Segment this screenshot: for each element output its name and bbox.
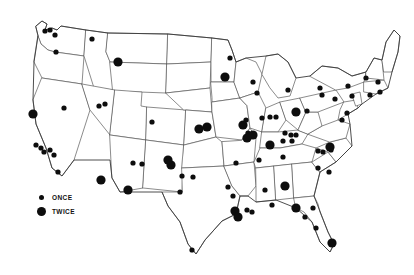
city-dot [267, 114, 272, 119]
city-dot [242, 133, 251, 142]
legend-label-once: ONCE [52, 194, 72, 201]
city-dot [233, 160, 238, 165]
city-dot [123, 185, 132, 194]
city-dot [285, 87, 290, 92]
city-dot [313, 225, 318, 230]
city-dot [315, 148, 320, 153]
city-dot [291, 107, 300, 116]
city-dot [315, 165, 320, 170]
visit-frequency-legend: ONCE TWICE [36, 190, 106, 218]
city-dot [325, 142, 334, 151]
city-dot [256, 157, 261, 162]
city-dot [53, 49, 58, 54]
city-dot [47, 27, 52, 32]
city-dot [302, 214, 307, 219]
city-dot [55, 169, 60, 174]
large-dot-icon [37, 207, 46, 216]
city-dot [282, 130, 287, 135]
city-dot [177, 189, 182, 194]
state-boundaries [33, 21, 400, 254]
city-dot [52, 32, 57, 37]
city-dot [377, 89, 382, 94]
us-map-graphic [0, 0, 414, 275]
city-dot [233, 212, 242, 221]
city-dot [238, 120, 247, 129]
city-dot [262, 187, 267, 192]
city-dot [289, 138, 294, 143]
city-dot [89, 36, 94, 41]
city-dot [220, 72, 229, 81]
city-dot [179, 173, 184, 178]
legend-item-twice: TWICE [36, 204, 106, 218]
city-dot [326, 169, 331, 174]
city-dot [33, 142, 38, 147]
city-dot [288, 132, 293, 137]
city-dot [344, 110, 349, 115]
city-dot [280, 181, 289, 190]
city-dot [149, 119, 154, 124]
city-dot [47, 147, 52, 152]
city-dot [202, 122, 211, 131]
city-dot [367, 92, 372, 97]
city-dot [96, 175, 105, 184]
city-dot [102, 101, 107, 106]
city-dot [304, 108, 309, 113]
city-dot [339, 117, 344, 122]
city-dot [130, 160, 135, 165]
city-dot [273, 114, 278, 119]
city-dot [244, 207, 249, 212]
city-dot [41, 149, 46, 154]
city-dot [225, 184, 230, 189]
city-dot [280, 154, 285, 159]
city-dot [349, 93, 354, 98]
city-dot [139, 161, 144, 166]
city-dot [227, 55, 232, 60]
city-dot [280, 138, 285, 143]
city-dot [259, 115, 264, 120]
city-dot [51, 152, 56, 157]
small-dot-icon [39, 195, 44, 200]
city-dot [28, 109, 37, 118]
legend-label-twice: TWICE [52, 208, 75, 215]
city-dot [293, 132, 298, 137]
city-dot [113, 57, 122, 66]
city-dot [310, 205, 315, 210]
city-dot [254, 90, 259, 95]
city-dot [319, 92, 324, 97]
city-dot [269, 202, 274, 207]
city-dot [189, 247, 194, 252]
city-dot [190, 174, 195, 179]
city-dot [249, 209, 254, 214]
city-dot [345, 83, 350, 88]
city-dot [265, 140, 274, 149]
city-dot [194, 124, 203, 133]
city-dot [375, 79, 380, 84]
legend-item-once: ONCE [36, 190, 106, 204]
city-dot [61, 105, 66, 110]
city-dot [363, 75, 368, 80]
city-dot [327, 238, 336, 247]
city-dot [230, 193, 235, 198]
city-dot [163, 155, 172, 164]
city-dot [332, 96, 337, 101]
city-dot [250, 79, 255, 84]
city-dot [96, 103, 101, 108]
us-visit-frequency-map: ONCE TWICE [0, 0, 414, 275]
city-dot [317, 85, 322, 90]
city-dot [320, 149, 325, 154]
city-dot [291, 203, 300, 212]
city-dot [42, 28, 47, 33]
